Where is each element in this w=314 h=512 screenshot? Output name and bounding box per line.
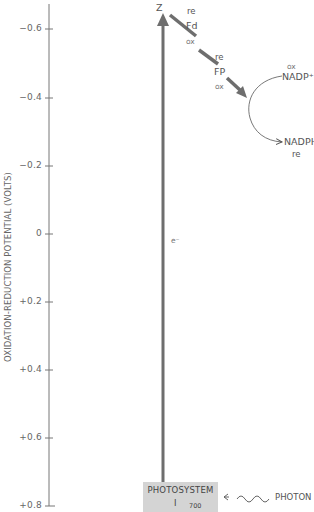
photosystem-title: PHOTOSYSTEM bbox=[143, 485, 218, 495]
tick-label-pos-0-8: +0.8 bbox=[19, 500, 42, 510]
tick-label-0: 0 bbox=[36, 228, 42, 238]
label-nadp-plus: NADP⁺ bbox=[282, 71, 314, 82]
tick-label-pos-0-4: +0.4 bbox=[19, 364, 42, 374]
diagram-graphics bbox=[0, 0, 314, 512]
fp-to-nadp-arrow bbox=[227, 78, 247, 98]
label-fd-ox: ox bbox=[186, 37, 195, 46]
photosystem-roman-numeral: I bbox=[174, 498, 177, 508]
label-nadph-re: re bbox=[292, 149, 301, 159]
y-axis-ticks bbox=[45, 29, 55, 506]
label-fd: Fd bbox=[186, 20, 198, 31]
nadp-reduction-curve bbox=[249, 76, 282, 142]
label-nadph: NADPH bbox=[284, 136, 314, 147]
tick-label-pos-0-2: +0.2 bbox=[19, 296, 42, 306]
photosystem-i-box: PHOTOSYSTEM I 700 bbox=[143, 482, 218, 512]
tick-label-neg-0-4: −0.4 bbox=[19, 92, 42, 102]
photosystem-p700: 700 bbox=[189, 502, 201, 510]
tick-label-neg-0-2: −0.2 bbox=[19, 160, 42, 170]
label-fp: FP bbox=[214, 66, 225, 77]
photon-wave-icon bbox=[224, 494, 269, 502]
tick-label-pos-0-6: +0.6 bbox=[19, 432, 42, 442]
label-photon: PHOTON bbox=[275, 492, 311, 502]
tick-label-neg-0-6: −0.6 bbox=[19, 23, 42, 33]
y-axis-title: OXIDATION-REDUCTION POTENTIAL (VOLTS) bbox=[3, 147, 13, 387]
label-fp-re: re bbox=[215, 52, 224, 62]
label-fp-ox: ox bbox=[215, 82, 224, 91]
electron-excitation-arrow bbox=[157, 13, 169, 482]
label-fd-re: re bbox=[187, 6, 196, 16]
label-nadp-ox: ox bbox=[287, 62, 296, 71]
label-z: Z bbox=[156, 2, 163, 13]
label-electron: e⁻ bbox=[171, 236, 180, 245]
